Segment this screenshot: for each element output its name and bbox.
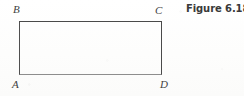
figure-container: B C A D Figure 6.18 [0,0,244,96]
figure-caption: Figure 6.18 [186,3,244,15]
vertex-label-d: D [160,78,168,90]
vertex-label-b: B [13,3,20,15]
vertex-label-a: A [12,78,19,90]
vertex-label-c: C [155,4,162,16]
rectangle-shape [19,21,162,75]
